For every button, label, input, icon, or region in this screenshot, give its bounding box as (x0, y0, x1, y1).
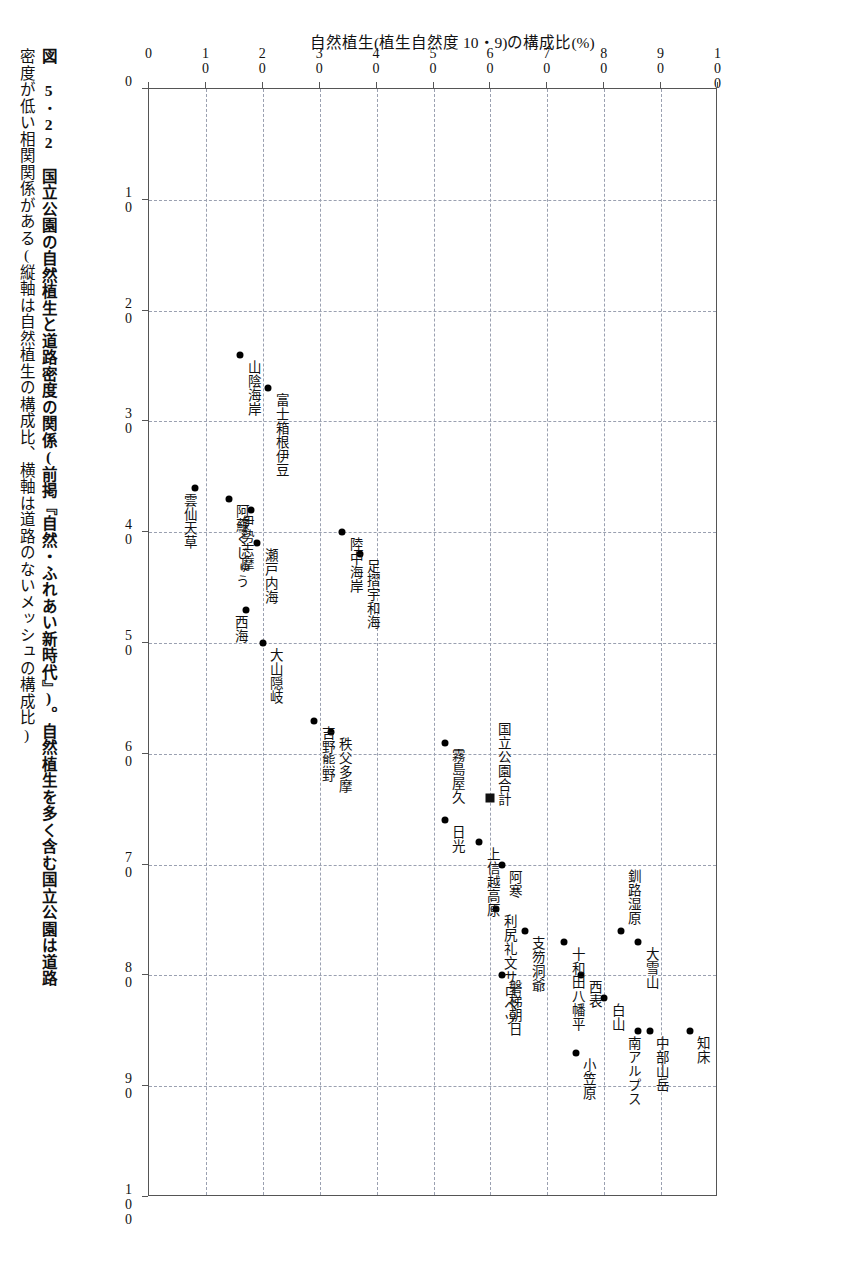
data-point (237, 351, 244, 358)
data-point (242, 606, 249, 613)
gridline-horizontal (149, 975, 716, 976)
figure-caption: 図 5･22 国立公園の自然植生と道路密度の関係(前掲『自然・ふれあい新時代』)… (0, 48, 62, 1228)
x-axis-tick (142, 1085, 148, 1086)
gridline-vertical (320, 89, 321, 1195)
x-axis-tick (142, 864, 148, 865)
data-point-label: 足摺宇和海 (366, 559, 380, 629)
data-point (486, 794, 495, 803)
data-point (618, 928, 625, 935)
data-point (441, 817, 448, 824)
x-axis-tick-label: 30 (120, 406, 136, 436)
data-point (635, 1027, 642, 1034)
x-axis-tick-label: 70 (120, 850, 136, 880)
x-axis-tick (142, 310, 148, 311)
gridline-horizontal (149, 643, 716, 644)
data-point (265, 385, 272, 392)
data-point (311, 717, 318, 724)
data-point-label: 中部山岳 (655, 1036, 669, 1092)
y-axis-tick (546, 82, 547, 88)
data-point (339, 529, 346, 536)
y-axis-tick (489, 82, 490, 88)
data-point-label: 陸中海岸 (348, 537, 362, 593)
data-point-label: 阿蘇くじゅう (235, 504, 249, 588)
y-axis-tick (660, 82, 661, 88)
data-point-label: 西表 (587, 980, 601, 1008)
data-point-label: 西海 (234, 615, 248, 643)
gridline-vertical (434, 89, 435, 1195)
x-axis-tick-label: 50 (120, 628, 136, 658)
gridline-horizontal (149, 754, 716, 755)
data-point-label: 南アルプス (626, 1036, 640, 1106)
data-point-label: 知床 (696, 1036, 710, 1064)
data-point-label: 雲仙天草 (183, 493, 197, 549)
data-point (572, 1049, 579, 1056)
figure-caption-line-1: 図 5･22 国立公園の自然植生と道路密度の関係(前掲『自然・ふれあい新時代』)… (41, 48, 57, 987)
x-axis-tick (142, 753, 148, 754)
data-point-label: 上信越高原 (485, 847, 499, 917)
data-point-label: 大山隠岐 (269, 648, 283, 704)
data-point-label: 秩父多摩 (337, 737, 351, 793)
gridline-vertical (604, 89, 605, 1195)
x-axis-tick-label: 80 (120, 960, 136, 990)
x-axis-tick-label: 20 (120, 296, 136, 326)
y-axis-tick-label: 0 (140, 46, 156, 61)
data-point-label: 阿寒 (508, 870, 522, 898)
x-axis-tick (142, 642, 148, 643)
x-axis-tick-label: 10 (120, 185, 136, 215)
gridline-horizontal (149, 311, 716, 312)
y-axis-tick-label: 10 (197, 46, 213, 76)
x-axis-tick (142, 1196, 148, 1197)
data-point-label: 釧路湿原 (626, 869, 640, 925)
gridline-horizontal (149, 200, 716, 201)
data-point (254, 540, 261, 547)
figure-caption-line-2: 密度が低い相関関係がある(縦軸は自然植生の構成比、横軸は道路のないメッシュの構成… (19, 48, 35, 743)
gridline-vertical (547, 89, 548, 1195)
x-axis-tick-label: 40 (120, 517, 136, 547)
data-point-label: 山陰海岸 (246, 360, 260, 416)
y-axis-tick-label: 70 (538, 46, 554, 76)
x-axis-tick (142, 88, 148, 89)
gridline-vertical (206, 89, 207, 1195)
data-point-label: 小笠原 (582, 1058, 596, 1100)
y-axis-tick (205, 82, 206, 88)
y-axis-tick (319, 82, 320, 88)
data-point-label: 利尻礼文サロベツ (502, 914, 516, 1026)
data-point (646, 1027, 653, 1034)
data-point (225, 495, 232, 502)
x-axis-tick-label: 100 (120, 1182, 136, 1227)
y-axis-tick-label: 50 (425, 46, 441, 76)
x-axis-tick (142, 531, 148, 532)
y-axis-tick (717, 82, 718, 88)
y-axis-tick-label: 60 (481, 46, 497, 76)
data-point (561, 939, 568, 946)
x-axis-tick (142, 420, 148, 421)
data-point-label: 国立公園合計 (496, 722, 510, 806)
data-point-label: 富士箱根伊豆 (274, 393, 288, 477)
y-axis-tick (148, 82, 149, 88)
x-axis-tick (142, 974, 148, 975)
x-axis-tick (142, 199, 148, 200)
data-point (521, 928, 528, 935)
data-point (635, 939, 642, 946)
data-point (686, 1027, 693, 1034)
data-point (259, 640, 266, 647)
data-point-label: 支笏洞爺 (531, 936, 545, 992)
gridline-horizontal (149, 865, 716, 866)
gridline-vertical (377, 89, 378, 1195)
y-axis-tick-label: 80 (595, 46, 611, 76)
y-axis-tick (262, 82, 263, 88)
data-point-label: 霧島屋久 (451, 748, 465, 804)
data-point-label: 瀬戸内海 (263, 548, 277, 604)
y-axis-tick-label: 20 (254, 46, 270, 76)
gridline-horizontal (149, 421, 716, 422)
data-point-label: 十和田八幡平 (570, 947, 584, 1031)
data-point-label: 日光 (451, 825, 465, 853)
gridline-vertical (661, 89, 662, 1195)
data-point (441, 739, 448, 746)
y-axis-tick (433, 82, 434, 88)
y-axis-tick (603, 82, 604, 88)
gridline-vertical (490, 89, 491, 1195)
y-axis-tick-label: 30 (311, 46, 327, 76)
data-point (476, 839, 483, 846)
data-point-label: 白山 (610, 1003, 624, 1031)
